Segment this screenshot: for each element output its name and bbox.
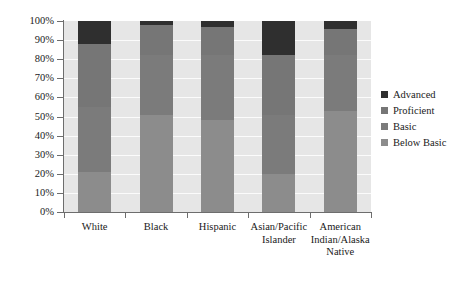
x-axis-tick-mark [371,213,372,218]
legend-item[interactable]: Advanced [381,86,473,102]
legend-swatch-icon [381,107,388,114]
y-axis-tick-mark [57,40,63,41]
x-axis-tick-mark [187,213,188,218]
y-axis-tick-label: 60% [6,92,54,103]
x-axis-tick-mark [64,213,65,218]
legend-item-label: Below Basic [393,137,446,148]
stacked-bar-chart: 100%90%80%70%60%50%40%30%20%10%0% WhiteB… [0,0,476,281]
legend-swatch-icon [381,91,388,98]
y-axis-tick-label: 20% [6,169,54,180]
y-axis-tick-label: 50% [6,112,54,123]
y-axis-tick-label: 100% [6,16,54,27]
y-axis-tick-mark [57,21,63,22]
y-axis-tick-mark [57,193,63,194]
y-axis-tick-mark [57,117,63,118]
x-axis-tick-label-line: American [293,221,387,234]
y-axis-tick-mark [57,174,63,175]
y-axis-tick-label: 70% [6,73,54,84]
legend-swatch-icon [381,123,388,130]
legend-item-label: Advanced [393,89,436,100]
y-axis-tick-mark [57,97,63,98]
x-axis-tick-mark [248,213,249,218]
y-axis-tick-mark [57,212,63,213]
legend-swatch-icon [381,139,388,146]
legend-item-label: Proficient [393,105,434,116]
y-axis-tick-label: 90% [6,35,54,46]
legend: AdvancedProficientBasicBelow Basic [381,86,473,150]
y-axis-tick-label: 40% [6,131,54,142]
x-axis-tick-mark [125,213,126,218]
y-axis-tick-mark [57,155,63,156]
y-axis-tick-label: 30% [6,150,54,161]
y-axis-tick-label: 80% [6,54,54,65]
legend-item[interactable]: Proficient [381,102,473,118]
y-axis-tick-mark [57,136,63,137]
x-axis-tick-label-line: Native [293,246,387,259]
y-axis-tick-mark [57,59,63,60]
y-axis-tick-label: 10% [6,188,54,199]
x-axis-tick-label-line: Indian/Alaska [293,234,387,247]
legend-item-label: Basic [393,121,416,132]
legend-item[interactable]: Basic [381,118,473,134]
legend-item[interactable]: Below Basic [381,134,473,150]
y-axis-tick-label: 0% [6,207,54,218]
y-axis-tick-mark [57,78,63,79]
x-axis-tick-mark [310,213,311,218]
x-axis-tick-label: AmericanIndian/AlaskaNative [293,221,387,259]
